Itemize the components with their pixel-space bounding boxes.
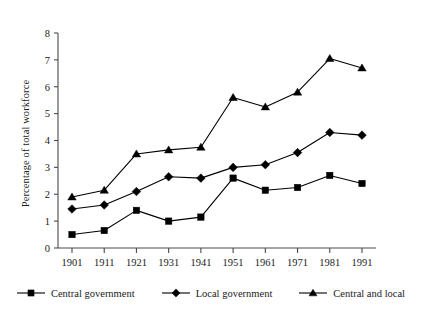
- x-axis-tick-label: 1921: [126, 257, 147, 268]
- chart-series-group: [68, 55, 367, 238]
- y-axis-tick-label: 3: [45, 162, 50, 173]
- data-point-marker: [69, 231, 75, 237]
- legend-item: Local government: [161, 287, 273, 299]
- y-axis-tick-label: 1: [45, 216, 50, 227]
- x-axis-tick-label: 1911: [94, 257, 115, 268]
- data-point-marker: [359, 180, 365, 186]
- legend-marker-triangle-icon: [298, 287, 328, 299]
- data-point-marker: [294, 184, 300, 190]
- data-point-marker: [197, 174, 206, 183]
- legend-item: Central and local: [298, 287, 405, 299]
- data-point-marker: [358, 131, 367, 140]
- data-point-marker: [229, 94, 237, 101]
- x-axis-tick-label: 1901: [62, 257, 83, 268]
- chart-series-central-government: [69, 172, 365, 238]
- legend-item-label: Local government: [196, 288, 273, 299]
- y-axis-tick-label: 6: [45, 82, 50, 93]
- data-point-marker: [133, 207, 139, 213]
- y-axis-tick-label: 0: [45, 243, 50, 254]
- chart-figure: 012345678 190119111921193119411951196119…: [0, 0, 421, 320]
- x-axis-tick-label: 1951: [223, 257, 244, 268]
- data-point-marker: [164, 172, 173, 181]
- y-axis-tick-label: 4: [45, 135, 51, 146]
- chart-series-local-government: [68, 128, 367, 213]
- chart-legend: Central governmentLocal governmentCentra…: [0, 287, 421, 299]
- y-axis-tick-labels: 012345678: [45, 28, 51, 254]
- y-axis-title: Percentage of total workforce: [16, 38, 36, 248]
- legend-item-label: Central and local: [333, 288, 405, 299]
- data-point-marker: [132, 187, 141, 196]
- x-axis-tick-label: 1981: [319, 257, 340, 268]
- x-axis-tick-label: 1931: [158, 257, 179, 268]
- data-point-marker: [198, 214, 204, 220]
- legend-item-label: Central government: [51, 288, 135, 299]
- data-point-marker: [197, 143, 205, 150]
- y-axis-tick-label: 5: [45, 108, 50, 119]
- data-point-marker: [68, 205, 77, 214]
- data-point-marker: [327, 172, 333, 178]
- x-axis-tick-label: 1961: [255, 257, 276, 268]
- data-point-marker: [262, 187, 268, 193]
- legend-item: Central government: [16, 287, 135, 299]
- data-point-marker: [326, 55, 334, 62]
- line-chart-plot: 012345678 190119111921193119411951196119…: [0, 0, 421, 320]
- y-axis-tick-label: 8: [45, 28, 50, 39]
- x-axis-tick-label: 1991: [352, 257, 373, 268]
- legend-marker-diamond-icon: [161, 287, 191, 299]
- y-axis-tick-label: 2: [45, 189, 50, 200]
- data-point-marker: [100, 201, 109, 210]
- x-axis-tick-label: 1941: [190, 257, 211, 268]
- y-axis-tick-label: 7: [45, 55, 50, 66]
- chart-axes: [54, 33, 376, 253]
- data-point-marker: [101, 227, 107, 233]
- y-axis-title-text: Percentage of total workforce: [21, 79, 32, 206]
- data-point-marker: [165, 218, 171, 224]
- data-point-marker: [230, 175, 236, 181]
- x-axis-tick-labels: 1901191119211931194119511961197119811991: [62, 257, 373, 268]
- data-point-marker: [325, 128, 334, 137]
- data-point-marker: [261, 160, 270, 169]
- data-point-marker: [293, 148, 302, 157]
- series-line: [72, 175, 362, 234]
- data-point-marker: [229, 163, 238, 172]
- legend-marker-square-icon: [16, 287, 46, 299]
- x-axis-tick-label: 1971: [287, 257, 308, 268]
- series-line: [72, 59, 362, 197]
